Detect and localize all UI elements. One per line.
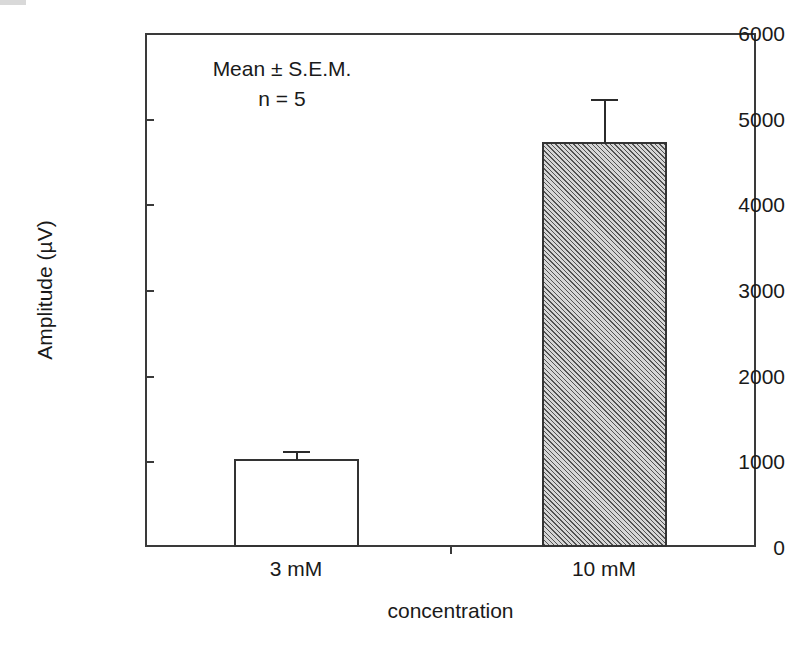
error-bar-stem-10mm xyxy=(604,100,606,144)
x-tick-label-3mm: 3 mM xyxy=(236,557,356,581)
y-tick-1000 xyxy=(145,461,154,463)
y-tick-label-0: 0 xyxy=(654,537,785,558)
y-tick-label-4000: 4000 xyxy=(654,194,785,215)
error-bar-cap-10mm xyxy=(591,99,618,101)
x-tick-label-10mm: 10 mM xyxy=(544,557,664,581)
y-tick-5000 xyxy=(145,119,154,121)
x-tick-center xyxy=(450,547,452,554)
y-tick-label-3000: 3000 xyxy=(654,280,785,301)
y-tick-3000 xyxy=(145,290,154,292)
scan-artifact xyxy=(0,0,26,5)
bar-chart-figure: 6000 5000 4000 3000 2000 1000 0 Amplitud… xyxy=(0,0,785,654)
y-tick-2000 xyxy=(145,376,154,378)
bar-10mm xyxy=(542,142,667,547)
y-tick-label-1000: 1000 xyxy=(654,451,785,472)
bar-3mm xyxy=(234,459,359,547)
annotation-line-mean-sem: Mean ± S.E.M. xyxy=(177,54,387,84)
x-axis-title: concentration xyxy=(145,598,756,624)
y-tick-4000 xyxy=(145,204,154,206)
y-tick-label-6000: 6000 xyxy=(654,23,785,44)
y-tick-label-2000: 2000 xyxy=(654,366,785,387)
error-bar-cap-3mm xyxy=(283,451,310,453)
y-axis-title: Amplitude (µV) xyxy=(30,33,60,547)
annotation-line-n: n = 5 xyxy=(177,84,387,114)
error-bar-stem-3mm xyxy=(296,452,298,460)
y-tick-label-5000: 5000 xyxy=(654,109,785,130)
y-tick-6000 xyxy=(145,33,154,35)
chart-annotation: Mean ± S.E.M. n = 5 xyxy=(177,54,387,114)
